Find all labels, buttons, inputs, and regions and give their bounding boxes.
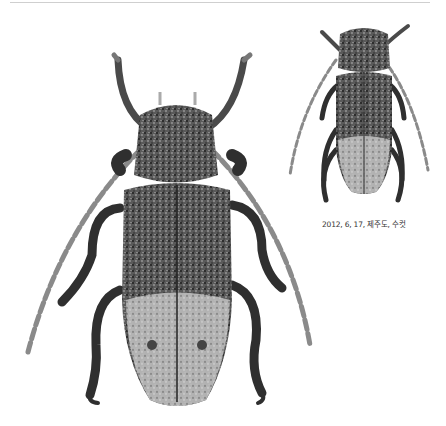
- large-beetle: [28, 55, 310, 406]
- large-beetle-thorax: [134, 105, 218, 183]
- small-beetle-thorax: [338, 28, 390, 72]
- specimen-caption: 2012, 6, 17, 제주도, 수컷: [322, 218, 405, 229]
- small-beetle: [290, 26, 428, 200]
- beetle-photograph: [0, 0, 446, 426]
